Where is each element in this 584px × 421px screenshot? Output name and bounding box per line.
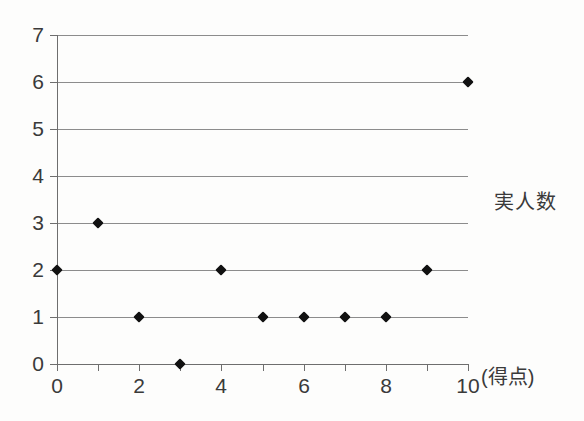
- gridline-y-7: [57, 35, 468, 36]
- y-tick-6: [50, 82, 57, 83]
- data-point-marker: [339, 311, 350, 322]
- data-point-marker: [421, 264, 432, 275]
- y-axis-line: [57, 35, 58, 365]
- data-point-marker: [462, 76, 473, 87]
- data-point-marker: [380, 311, 391, 322]
- data-point-marker: [174, 358, 185, 369]
- y-tick-label-5: 5: [18, 118, 44, 139]
- x-tick-4: [221, 364, 222, 371]
- y-tick-3: [50, 223, 57, 224]
- x-tick-7: [345, 364, 346, 371]
- y-tick-label-6: 6: [18, 71, 44, 92]
- x-tick-1: [98, 364, 99, 371]
- y-tick-label-7: 7: [18, 24, 44, 45]
- chart-page: 012345670246810 実人数 (得点): [0, 0, 584, 421]
- gridline-y-5: [57, 129, 468, 130]
- x-tick-6: [304, 364, 305, 371]
- y-tick-label-4: 4: [18, 165, 44, 186]
- y-tick-0: [50, 364, 57, 365]
- x-tick-label-4: 4: [201, 375, 241, 396]
- x-tick-2: [139, 364, 140, 371]
- data-point-marker: [257, 311, 268, 322]
- data-point-marker: [298, 311, 309, 322]
- y-tick-label-2: 2: [18, 259, 44, 280]
- x-tick-10: [468, 364, 469, 371]
- y-tick-7: [50, 35, 57, 36]
- x-tick-label-2: 2: [119, 375, 159, 396]
- y-tick-label-0: 0: [18, 353, 44, 374]
- x-tick-label-6: 6: [284, 375, 324, 396]
- x-tick-9: [427, 364, 428, 371]
- x-tick-8: [386, 364, 387, 371]
- y-tick-1: [50, 317, 57, 318]
- x-axis-title: (得点): [481, 367, 534, 387]
- y-tick-5: [50, 129, 57, 130]
- gridline-y-4: [57, 176, 468, 177]
- x-tick-label-0: 0: [37, 375, 77, 396]
- data-point-marker: [51, 264, 62, 275]
- x-tick-0: [57, 364, 58, 371]
- y-tick-label-1: 1: [18, 306, 44, 327]
- x-tick-label-8: 8: [366, 375, 406, 396]
- y-axis-title: 実人数: [494, 192, 557, 212]
- gridline-y-2: [57, 270, 468, 271]
- y-tick-4: [50, 176, 57, 177]
- x-tick-5: [263, 364, 264, 371]
- gridline-y-3: [57, 223, 468, 224]
- data-point-marker: [133, 311, 144, 322]
- gridline-y-6: [57, 82, 468, 83]
- data-point-marker: [92, 217, 103, 228]
- data-point-marker: [215, 264, 226, 275]
- y-tick-label-3: 3: [18, 212, 44, 233]
